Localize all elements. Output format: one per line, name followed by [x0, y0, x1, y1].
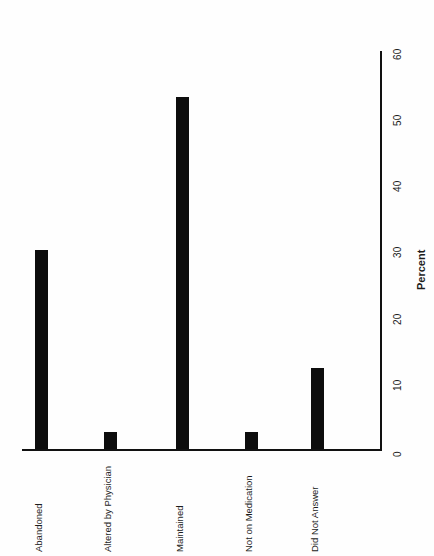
category-label-altered-by-physician: Altered by Physician	[102, 466, 113, 552]
value-tick-50: 50	[392, 114, 403, 126]
bar-not-on-medication	[245, 432, 258, 449]
bar-did-not-answer	[311, 368, 324, 449]
bar-altered-by-physician	[104, 432, 117, 449]
category-label-abandoned: Abandoned	[33, 503, 44, 552]
category-axis-line	[22, 449, 381, 451]
value-tick-60: 60	[392, 48, 403, 60]
value-tick-20: 20	[392, 313, 403, 325]
category-label-did-not-answer: Did Not Answer	[309, 487, 320, 552]
value-axis-line	[380, 51, 382, 451]
bar-chart: 0 10 20 30 40 50 60 Percent Abandoned Al…	[0, 0, 434, 556]
value-tick-0: 0	[392, 451, 403, 457]
value-tick-10: 10	[392, 379, 403, 391]
category-label-maintained: Maintained	[174, 506, 185, 552]
value-tick-30: 30	[392, 246, 403, 258]
bar-abandoned	[35, 250, 48, 449]
value-tick-40: 40	[392, 180, 403, 192]
value-axis-title: Percent	[415, 250, 427, 290]
category-label-not-on-medication: Not on Medication	[243, 475, 254, 552]
bar-maintained	[176, 97, 189, 449]
